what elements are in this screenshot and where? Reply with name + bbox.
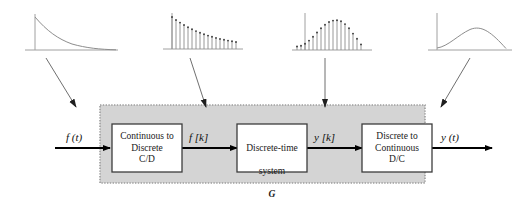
block-label-symbol-g: G: [269, 189, 276, 198]
block-label-discrete-time-system: Discrete-time system G: [237, 131, 307, 197]
block-label-discrete-to-continuous: Discrete to Continuous D/C: [362, 131, 432, 166]
signal-label-f-t: f (t): [66, 131, 82, 143]
plot-f-t: [25, 14, 118, 50]
signal-label-y-k: y [k]: [314, 131, 335, 143]
pointer-arrow-f-t: [46, 58, 76, 107]
plot-y-t: [428, 13, 512, 50]
pointer-arrow-f-k: [190, 58, 206, 107]
plot-y-k: [292, 13, 372, 50]
signal-label-y-t: y (t): [441, 131, 459, 143]
signal-label-f-k: f [k]: [189, 131, 208, 143]
block-label-continuous-to-discrete: Continuous to Discrete C/D: [112, 131, 182, 166]
pointer-arrows: [46, 58, 470, 107]
pointer-arrow-y-t: [441, 58, 470, 107]
plot-f-k: [163, 13, 243, 49]
block-diagram-figure: Continuous to Discrete C/D Discrete-time…: [0, 0, 528, 197]
block-label-line1: Discrete-time: [246, 143, 298, 153]
block-label-line2: system: [259, 166, 285, 176]
